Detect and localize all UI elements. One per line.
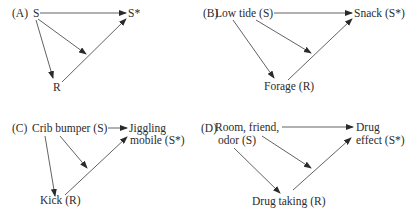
arrow-b-r-to-sstar bbox=[288, 19, 352, 80]
panel-label: (C) bbox=[12, 122, 27, 135]
arrow-c-s-to-rs bbox=[60, 136, 87, 168]
arrow-b-s-to-rs bbox=[256, 20, 311, 53]
arrow-d-r-to-sstar bbox=[293, 138, 351, 190]
outcome-label-line2: mobile (S*) bbox=[130, 134, 185, 147]
response-label: R bbox=[53, 81, 61, 94]
response-label: Forage (R) bbox=[264, 80, 314, 93]
arrow-c-s-to-r bbox=[45, 136, 55, 196]
stimulus-label: Low tide (S) bbox=[215, 7, 273, 20]
response-label: Kick (R) bbox=[40, 194, 81, 207]
arrow-d-s-to-rs bbox=[262, 136, 311, 168]
stimulus-label-line2: odor (S) bbox=[218, 134, 256, 147]
arrow-b-s-to-r bbox=[233, 20, 274, 78]
outcome-label: S* bbox=[128, 7, 140, 20]
outcome-label-line2: effect (S*) bbox=[356, 134, 405, 147]
stimulus-label: Crib bumper (S) bbox=[32, 122, 107, 135]
stimulus-label: S bbox=[33, 7, 39, 20]
outcome-label-line1: Drug bbox=[356, 121, 380, 134]
arrow-a-s-to-rs bbox=[38, 19, 86, 54]
response-label: Drug taking (R) bbox=[252, 195, 325, 208]
arrow-a-r-to-sstar bbox=[62, 19, 126, 82]
arrow-a-s-to-r bbox=[36, 20, 53, 78]
outcome-label: Snack (S*) bbox=[354, 7, 405, 20]
panel-label: (A) bbox=[12, 7, 28, 20]
arrow-d-s-to-r bbox=[234, 148, 280, 193]
stimulus-label-line1: Room, friend, bbox=[215, 121, 279, 134]
arrow-c-r-to-sstar bbox=[65, 137, 127, 195]
diagram-arrows bbox=[0, 0, 408, 215]
